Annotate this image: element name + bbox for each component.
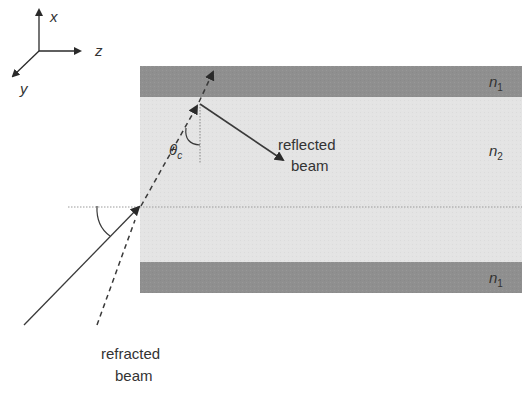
refracted-beam-label-line2: beam — [115, 367, 153, 384]
incidence-angle-arc — [97, 206, 110, 236]
z-axis-label: z — [94, 42, 103, 59]
refracted-beam-label-line1: refracted — [101, 345, 160, 362]
reflected-beam-label-line1: reflected — [278, 136, 336, 153]
y-axis-arrow — [13, 51, 39, 76]
x-axis-label: x — [49, 8, 58, 25]
incident-beam — [24, 207, 139, 325]
waveguide-diagram: x z y n1 n2 n1 θc reflected beam refract… — [0, 0, 530, 394]
reflected-beam-label-line2: beam — [291, 157, 329, 174]
coordinate-axes: x z y — [13, 8, 103, 97]
refracted-beam-dashed — [97, 220, 135, 325]
y-axis-label: y — [19, 80, 29, 97]
waveguide — [68, 66, 522, 293]
